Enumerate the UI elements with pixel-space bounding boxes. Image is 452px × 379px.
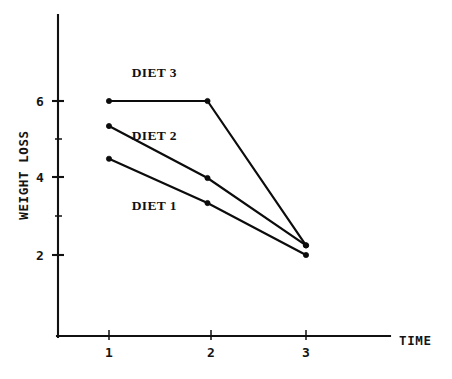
- series-label-1: DIET 1: [132, 198, 177, 213]
- x-axis-title: TIME: [399, 333, 432, 348]
- axes-group: [57, 15, 390, 337]
- data-point[interactable]: [303, 243, 308, 248]
- y-axis-title: WEIGHT LOSS: [16, 130, 31, 219]
- series-label-layer: DIET 1DIET 2DIET 3: [132, 65, 177, 212]
- y-tick-label-6: 6: [36, 94, 44, 109]
- data-point[interactable]: [106, 123, 111, 128]
- data-point[interactable]: [106, 156, 111, 161]
- data-point[interactable]: [205, 175, 210, 180]
- series-layer: [106, 98, 308, 257]
- series-line-2: [109, 126, 306, 245]
- x-tick-label-2: 2: [207, 345, 215, 360]
- x-tick-label-1: 1: [105, 345, 113, 360]
- y-tick-label-4: 4: [36, 170, 44, 185]
- y-tick-label-2: 2: [36, 248, 44, 263]
- data-point[interactable]: [106, 98, 111, 103]
- x-tick-label-3: 3: [302, 345, 310, 360]
- data-point[interactable]: [303, 252, 308, 257]
- series-label-2: DIET 2: [132, 128, 177, 143]
- line-chart: 6 4 2 1 2 3 WEIGHT LOSS TIME DIET 1DIET …: [0, 0, 452, 379]
- chart-page: 6 4 2 1 2 3 WEIGHT LOSS TIME DIET 1DIET …: [0, 0, 452, 379]
- series-label-3: DIET 3: [132, 65, 177, 80]
- data-point[interactable]: [205, 200, 210, 205]
- data-point[interactable]: [205, 98, 210, 103]
